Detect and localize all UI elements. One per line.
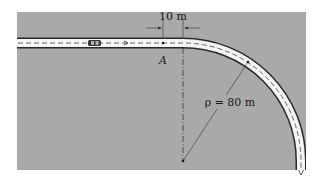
radius-endpoint <box>247 61 249 63</box>
point-a-marker <box>162 42 165 45</box>
center-point <box>182 160 185 163</box>
radius-label: ρ = 80 m <box>205 96 256 109</box>
dimension-label: 10 m <box>159 10 187 23</box>
car-icon <box>88 40 101 46</box>
road-curve-diagram: 10 m A ρ = 80 m <box>0 0 317 182</box>
direction-arrow-icon <box>299 170 304 175</box>
ground-background <box>17 12 306 170</box>
point-a-label: A <box>158 54 167 67</box>
